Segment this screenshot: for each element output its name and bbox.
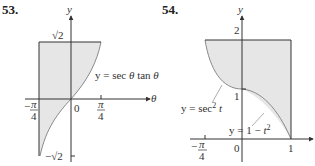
tick-neg-sign-53: − bbox=[24, 100, 30, 112]
y-axis-label-53: y bbox=[66, 3, 72, 15]
curve-label-sec-squared: y = sec2 t bbox=[181, 101, 223, 114]
tick-pi-den-right-53: 4 bbox=[98, 110, 104, 122]
problem-number-54: 54. bbox=[162, 2, 178, 17]
y-axis-label-54: y bbox=[237, 3, 243, 15]
tick-pi-num-right-53: π bbox=[98, 98, 104, 110]
origin-label-54: 0 bbox=[234, 142, 240, 154]
tick-label-1-y: 1 bbox=[234, 90, 240, 102]
tick-label-1-t: 1 bbox=[288, 142, 294, 154]
tick-label-neg-sqrt2: −√2 bbox=[45, 150, 63, 162]
tick-pi-num-left-53: π bbox=[31, 98, 37, 110]
tick-neg-sign-54: − bbox=[191, 140, 197, 152]
tick-pi-den-54: 4 bbox=[199, 150, 205, 162]
tick-label-2: 2 bbox=[234, 24, 240, 36]
curve-label-one-minus-t-squared: y = 1 − t2 bbox=[229, 123, 270, 136]
origin-label-53: 0 bbox=[74, 102, 80, 114]
graph-54 bbox=[190, 16, 313, 162]
problem-number-53: 53. bbox=[2, 2, 18, 17]
tick-pi-den-left-53: 4 bbox=[31, 110, 37, 122]
graph-53 bbox=[25, 16, 150, 162]
tick-label-sqrt2: √2 bbox=[52, 29, 64, 41]
tick-pi-num-54: π bbox=[199, 138, 205, 150]
curve-label-sec-tan: y = sec θ tan θ bbox=[95, 69, 159, 81]
figure-canvas: 53. y θ √2 −√2 0 − π 4 π 4 y = sec θ tan… bbox=[0, 0, 315, 166]
theta-axis-label: θ bbox=[151, 92, 157, 104]
